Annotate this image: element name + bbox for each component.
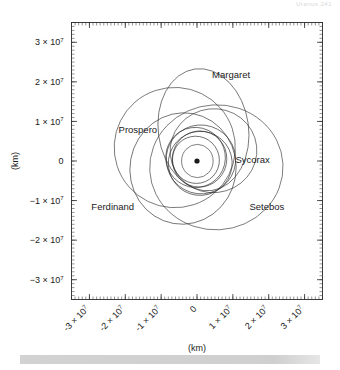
x-tick-label: -1 × 107 <box>133 303 163 333</box>
y-tick-label: 3 × 107 <box>35 37 64 47</box>
y-tick-label: −2 × 107 <box>30 235 65 245</box>
orbit-label-margaret: Margaret <box>212 69 250 80</box>
orbit-caliban <box>167 126 232 192</box>
x-tick-label: 0 <box>188 304 199 315</box>
x-tick-label: 2 × 107 <box>243 303 271 331</box>
x-axis-title: (km) <box>188 343 206 353</box>
y-axis-title: (km) <box>10 152 20 170</box>
planet-marker-uranus <box>194 158 199 163</box>
x-tick-labels: -3 × 107-2 × 107-1 × 10701 × 1072 × 1073… <box>61 303 306 333</box>
orbit-label-ferdinand: Ferdinand <box>91 201 134 212</box>
x-tick-label: 3 × 107 <box>278 303 306 331</box>
x-tick-label: -3 × 107 <box>61 303 91 333</box>
orbit-label-setebos: Setebos <box>249 201 284 212</box>
orbit-label-sycorax: Sycorax <box>235 154 270 165</box>
y-tick-label: 2 × 107 <box>35 77 64 87</box>
caption-bar <box>20 355 320 364</box>
y-tick-label: 0 <box>58 156 63 166</box>
orbit-plot: 3 × 1072 × 1071 × 1070−1 × 107−2 × 107−3… <box>0 0 340 370</box>
x-tick-label: 1 × 107 <box>207 303 235 331</box>
y-tick-label: 1 × 107 <box>35 116 64 126</box>
orbit-inner-orbit-b <box>157 116 244 203</box>
y-tick-label: −3 × 107 <box>30 275 65 285</box>
y-tick-label: −1 × 107 <box>30 195 65 205</box>
figure-container: Uranus 241 3 × 1072 × 1071 × 1070−1 × 10… <box>0 0 340 370</box>
orbit-label-prospero: Prospero <box>119 124 158 135</box>
x-tick-label: -2 × 107 <box>97 303 127 333</box>
y-tick-labels: 3 × 1072 × 1071 × 1070−1 × 107−2 × 107−3… <box>30 37 65 285</box>
